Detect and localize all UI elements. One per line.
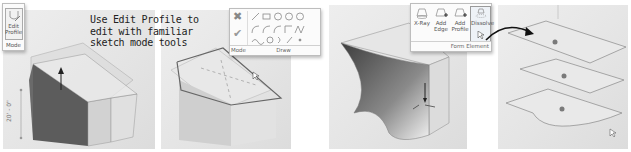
add-profile-button[interactable]: Add Profile: [451, 7, 469, 40]
spline-curve-icon: [252, 40, 264, 45]
dimension-label: 20' - 0": [5, 100, 12, 122]
spline-icon: [295, 26, 304, 33]
add-edge-label-2: Edge: [432, 26, 450, 32]
fillet-arc-icon: [285, 26, 292, 33]
caption-text: Use Edit Profile to edit with familiar s…: [90, 14, 199, 49]
curved-arrow-icon: [480, 20, 540, 45]
draw-tools-grid[interactable]: [250, 11, 318, 45]
edit-profile-icon: [6, 9, 22, 23]
mouse-cursor-icon: [610, 129, 616, 137]
add-edge-icon: [434, 7, 448, 19]
dissolve-icon: [474, 7, 488, 19]
caption-line: Use Edit Profile to: [90, 14, 199, 26]
add-profile-label-2: Profile: [451, 26, 469, 32]
ribbon-mode-panel: Edit Profile Mode: [2, 3, 25, 51]
rectangle-tool-icon: [263, 14, 270, 19]
x-ray-button[interactable]: X-Ray: [413, 7, 431, 40]
profile-point: [560, 107, 565, 112]
pick-lines-icon: [287, 37, 292, 43]
partial-ellipse-icon: [278, 37, 280, 43]
inscribed-polygon-icon: [275, 13, 282, 20]
arc-tool-icon: [297, 13, 304, 20]
mode-group-label: Mode: [3, 42, 24, 48]
add-profile-icon: [453, 7, 467, 19]
draw-group-label: Draw: [247, 46, 320, 55]
profile-point: [562, 74, 567, 79]
profile-point: [553, 40, 558, 45]
mode-group-label: Mode: [230, 46, 247, 55]
x-ray-label: X-Ray: [413, 20, 431, 26]
caption-line: sketch mode tools: [90, 37, 199, 49]
edit-profile-label-2: Profile: [3, 29, 24, 35]
cancel-edit-mode-icon[interactable]: ✖: [233, 12, 242, 22]
add-edge-button[interactable]: Add Edge: [432, 7, 450, 40]
point-icon: [299, 39, 301, 41]
start-end-arc-icon: [252, 26, 259, 33]
center-arc-icon: [263, 26, 270, 33]
tangent-arc-icon: [274, 26, 281, 33]
ellipse-icon: [267, 37, 273, 43]
finish-edit-mode-icon[interactable]: ✔: [233, 29, 242, 39]
ribbon-draw-panel: ✖ ✔ Mode Draw: [229, 8, 321, 56]
caption-line: edit with familiar: [90, 26, 199, 38]
circle-tool-icon: [286, 13, 293, 20]
x-ray-icon: [415, 7, 429, 19]
line-tool-icon: [252, 13, 259, 20]
